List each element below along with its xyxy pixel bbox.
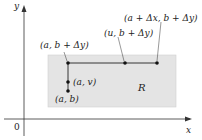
diagram: y x 0 R (a, b + Δy) (u, b + Δy) (a + Δx,… — [0, 0, 202, 140]
x-axis-arrow-icon — [185, 117, 192, 122]
origin-label: 0 — [14, 122, 20, 132]
point-a-b — [66, 89, 70, 93]
point-a-b-plus-dy — [66, 61, 70, 65]
label-a-b-plus-dy: (a, b + Δy) — [40, 40, 89, 50]
point-a-plus-dx-b-plus-dy — [155, 61, 159, 65]
y-axis-label: y — [13, 1, 20, 11]
label-a-b: (a, b) — [55, 94, 79, 104]
y-axis-arrow-icon — [22, 5, 27, 12]
x-axis-label: x — [186, 125, 191, 135]
point-u-b-plus-dy — [123, 61, 127, 65]
label-a-plus-dx-b-plus-dy: (a + Δx, b + Δy) — [124, 13, 198, 23]
label-u-b-plus-dy: (u, b + Δy) — [104, 28, 154, 38]
point-a-v — [66, 80, 70, 84]
region-label: R — [137, 82, 146, 93]
label-a-v: (a, v) — [73, 77, 97, 87]
